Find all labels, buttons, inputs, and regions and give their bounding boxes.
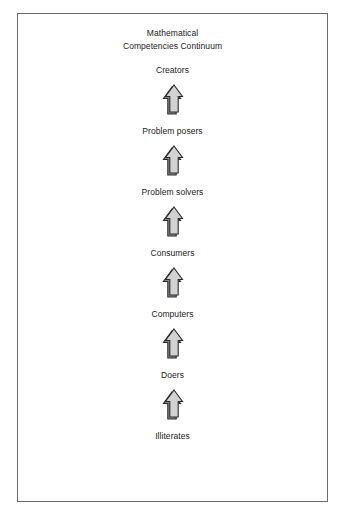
up-arrow-icon — [160, 388, 186, 424]
diagram-title-line-2: Competencies Continuum — [123, 40, 222, 53]
level-label-consumers: Consumers — [151, 248, 195, 258]
diagram-title: Mathematical Competencies Continuum — [123, 27, 222, 52]
figure-border: Mathematical Competencies Continuum Crea… — [17, 13, 328, 502]
level-label-creators: Creators — [156, 65, 189, 75]
up-arrow-icon — [160, 83, 186, 119]
level-label-problem-posers: Problem posers — [142, 126, 202, 136]
diagram-title-line-1: Mathematical — [123, 27, 222, 40]
continuum-stack: Creators Problem posers Problem solvers — [142, 65, 204, 441]
up-arrow-icon — [160, 205, 186, 241]
level-label-illiterates: Illiterates — [155, 431, 190, 441]
up-arrow-icon — [160, 327, 186, 363]
level-label-doers: Doers — [161, 370, 184, 380]
competencies-continuum-diagram: Mathematical Competencies Continuum Crea… — [18, 14, 327, 501]
level-label-problem-solvers: Problem solvers — [142, 187, 204, 197]
level-label-computers: Computers — [151, 309, 193, 319]
up-arrow-icon — [160, 144, 186, 180]
up-arrow-icon — [160, 266, 186, 302]
